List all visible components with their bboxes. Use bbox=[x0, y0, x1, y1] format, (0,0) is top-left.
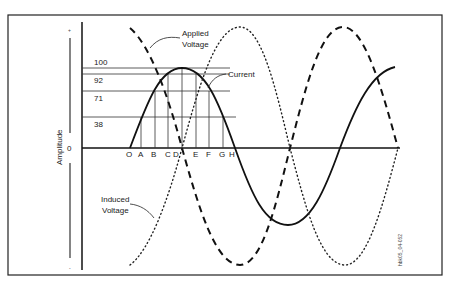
figure-frame bbox=[8, 15, 442, 275]
level-38-label: 38 bbox=[94, 120, 103, 129]
point-f-label: F bbox=[206, 150, 211, 159]
point-o-label: O bbox=[126, 150, 132, 159]
applied-voltage-label-line1: Applied bbox=[182, 29, 209, 38]
applied-voltage-label-line2: Voltage bbox=[182, 40, 209, 49]
sample-lines bbox=[141, 68, 223, 148]
point-e-label: E bbox=[193, 150, 198, 159]
plus-symbol: + bbox=[68, 27, 71, 33]
level-71-label: 71 bbox=[94, 94, 103, 103]
point-a-label: A bbox=[138, 150, 144, 159]
point-b-label: B bbox=[151, 150, 156, 159]
point-g-label: G bbox=[219, 150, 225, 159]
induced-voltage-curve bbox=[130, 27, 398, 265]
current-leader bbox=[208, 74, 226, 88]
point-c-label: C bbox=[165, 150, 171, 159]
applied-voltage-curve bbox=[130, 27, 398, 265]
figure-id: hbk05_04-052 bbox=[397, 234, 403, 266]
induced-voltage-leader bbox=[130, 204, 154, 218]
applied-voltage-leader bbox=[150, 37, 180, 48]
level-100-label: 100 bbox=[94, 58, 108, 67]
minus-symbol: - bbox=[69, 265, 71, 271]
point-d-label: D bbox=[173, 150, 179, 159]
amplitude-label: Amplitude bbox=[55, 129, 64, 165]
current-label: Current bbox=[228, 70, 255, 79]
level-92-label: 92 bbox=[94, 76, 103, 85]
waveform-diagram: + - 0 Amplitude 100 92 71 38 O A B C D E… bbox=[0, 0, 449, 282]
point-h-label: H bbox=[229, 150, 235, 159]
induced-voltage-label-line2: Voltage bbox=[102, 206, 129, 215]
point-labels: O A B C D E F G H bbox=[126, 150, 235, 159]
induced-voltage-label-line1: Induced bbox=[101, 195, 129, 204]
zero-label: 0 bbox=[67, 144, 72, 153]
